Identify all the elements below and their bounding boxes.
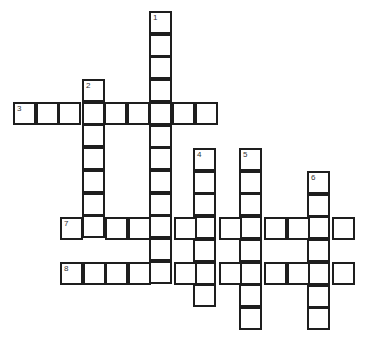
crossword-cell[interactable] — [193, 284, 216, 307]
crossword-cell[interactable] — [82, 170, 105, 193]
clue-number-label: 1 — [153, 13, 157, 22]
crossword-cell[interactable] — [307, 239, 330, 262]
crossword-cell[interactable] — [193, 171, 216, 194]
crossword-cell[interactable] — [264, 217, 287, 240]
crossword-cell[interactable] — [239, 216, 262, 239]
crossword-cell[interactable] — [82, 215, 105, 238]
crossword-cell[interactable]: 6 — [307, 171, 330, 194]
crossword-cell[interactable] — [307, 194, 330, 217]
crossword-cell[interactable] — [82, 102, 105, 125]
crossword-cell[interactable] — [149, 147, 172, 170]
crossword-cell[interactable] — [149, 79, 172, 102]
crossword-cell[interactable] — [149, 102, 172, 125]
crossword-cell[interactable] — [239, 262, 262, 285]
crossword-cell[interactable] — [287, 262, 310, 285]
crossword-cell[interactable]: 3 — [13, 102, 36, 125]
clue-number-label: 2 — [86, 81, 90, 90]
crossword-cell[interactable] — [264, 262, 287, 285]
crossword-cell[interactable] — [58, 102, 81, 125]
crossword-grid: 12345678 — [0, 0, 365, 346]
crossword-cell[interactable] — [239, 171, 262, 194]
crossword-cell[interactable] — [82, 124, 105, 147]
clue-number-label: 6 — [311, 173, 315, 182]
crossword-cell[interactable] — [219, 262, 242, 285]
crossword-cell[interactable]: 4 — [193, 148, 216, 171]
crossword-cell[interactable] — [149, 56, 172, 79]
crossword-cell[interactable] — [332, 217, 355, 240]
crossword-cell[interactable] — [149, 125, 172, 148]
crossword-cell[interactable] — [307, 285, 330, 308]
crossword-cell[interactable] — [83, 262, 106, 285]
crossword-cell[interactable] — [104, 102, 127, 125]
crossword-cell[interactable] — [307, 262, 330, 285]
crossword-cell[interactable] — [332, 262, 355, 285]
crossword-cell[interactable] — [128, 217, 151, 240]
crossword-cell[interactable] — [239, 193, 262, 216]
crossword-cell[interactable] — [195, 102, 218, 125]
crossword-cell[interactable] — [287, 217, 310, 240]
crossword-cell[interactable] — [149, 238, 172, 261]
crossword-cell[interactable]: 1 — [149, 11, 172, 34]
crossword-cell[interactable] — [307, 307, 330, 330]
clue-number-label: 4 — [197, 150, 201, 159]
crossword-cell[interactable] — [149, 34, 172, 57]
crossword-cell[interactable] — [239, 284, 262, 307]
crossword-cell[interactable] — [149, 193, 172, 216]
crossword-cell[interactable] — [105, 217, 128, 240]
crossword-cell[interactable] — [219, 217, 242, 240]
crossword-cell[interactable] — [239, 307, 262, 330]
crossword-cell[interactable] — [128, 262, 151, 285]
crossword-cell[interactable] — [149, 261, 172, 284]
crossword-cell[interactable] — [174, 217, 197, 240]
clue-number-label: 5 — [243, 150, 247, 159]
clue-number-label: 3 — [17, 104, 21, 113]
clue-number-label: 7 — [64, 219, 68, 228]
crossword-cell[interactable] — [127, 102, 150, 125]
crossword-cell[interactable] — [239, 239, 262, 262]
crossword-cell[interactable]: 7 — [60, 217, 83, 240]
crossword-cell[interactable]: 5 — [239, 148, 262, 171]
crossword-cell[interactable] — [82, 147, 105, 170]
crossword-cell[interactable] — [172, 102, 195, 125]
crossword-cell[interactable] — [174, 262, 197, 285]
crossword-cell[interactable] — [82, 193, 105, 216]
crossword-cell[interactable] — [149, 215, 172, 238]
crossword-cell[interactable] — [149, 170, 172, 193]
crossword-cell[interactable] — [105, 262, 128, 285]
crossword-cell[interactable] — [307, 216, 330, 239]
crossword-cell[interactable] — [36, 102, 59, 125]
crossword-cell[interactable] — [193, 193, 216, 216]
crossword-cell[interactable]: 8 — [60, 262, 83, 285]
crossword-cell[interactable]: 2 — [82, 79, 105, 102]
clue-number-label: 8 — [64, 264, 68, 273]
crossword-cell[interactable] — [193, 239, 216, 262]
